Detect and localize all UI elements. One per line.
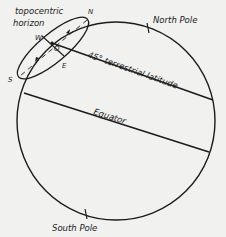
north-marker-label: N (88, 8, 94, 16)
east-marker-label: E (62, 62, 67, 70)
latitude-label: 45° terrestrial latitude (86, 49, 179, 90)
south-marker-label: S (8, 76, 13, 84)
north-pole-label: North Pole (153, 15, 197, 25)
south-pole-label: South Pole (52, 223, 97, 233)
south-pole-tick (85, 209, 87, 219)
diagram-canvas: topocentric horizon N S W E O North Pole… (0, 0, 226, 237)
observer-marker-label: O (54, 45, 60, 53)
equator-label: Equator (92, 106, 127, 126)
earth-horizon-diagram: topocentric horizon N S W E O North Pole… (0, 0, 226, 237)
horizon-label-line2: horizon (13, 18, 45, 28)
west-marker-label: W (35, 34, 43, 42)
horizon-label-line1: topocentric (15, 6, 64, 16)
observer-point (51, 42, 54, 45)
